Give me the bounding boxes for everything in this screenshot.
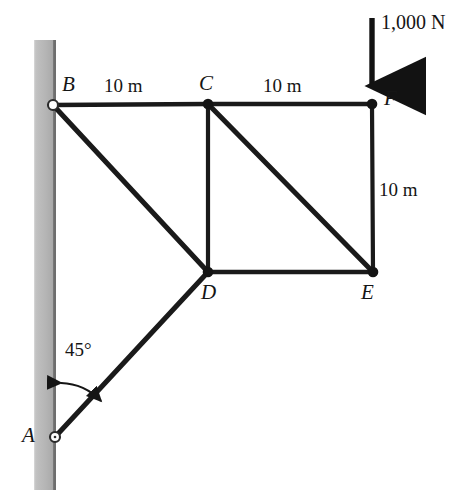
load-magnitude-label: 1,000 N <box>381 12 445 32</box>
dimension-label-EF: 10 m <box>379 180 418 199</box>
dimension-label-BC: 10 m <box>104 76 143 95</box>
joint-label-E: E <box>361 282 374 303</box>
joint-F-marker <box>367 99 378 110</box>
joint-D-marker <box>203 267 214 278</box>
joint-B-pin-marker <box>48 100 58 110</box>
joint-label-A: A <box>22 425 35 446</box>
truss-figure: 1,000 N 10 m 10 m 10 m 45° A B C D E F <box>0 0 475 504</box>
member-BC <box>53 104 208 105</box>
member-EF <box>372 104 373 272</box>
joint-A-pin-center <box>54 436 57 439</box>
joint-label-B: B <box>62 74 75 95</box>
joint-label-F: F <box>384 88 397 109</box>
joint-E-marker <box>368 267 379 278</box>
member-CE <box>208 104 373 272</box>
dimension-label-CF: 10 m <box>263 76 302 95</box>
member-BD <box>53 105 208 272</box>
angle-value-label: 45° <box>65 340 92 359</box>
joint-label-C: C <box>199 73 213 94</box>
joint-C-marker <box>203 99 214 110</box>
joint-label-D: D <box>201 282 216 303</box>
